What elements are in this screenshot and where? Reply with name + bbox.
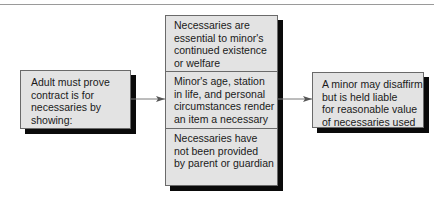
outcome-line: but is held liable [322,91,423,104]
condition-line: by parent or guardian [174,157,277,170]
middle-box-conditions: Necessaries are essential to minor's con… [165,15,278,186]
condition-line: continued existence [174,44,277,57]
condition-line: Necessaries have [174,132,277,145]
condition-not-provided: Necessaries have not been provided by pa… [166,129,277,185]
condition-line: not been provided [174,145,277,158]
condition-line: Minor's age, station [174,75,277,88]
top-rule [0,4,434,5]
condition-circumstances: Minor's age, station in life, and person… [166,72,277,129]
outcome-line: A minor may disaffirm [322,78,423,91]
left-box-adult-must-prove: Adult must prove contract is for necessa… [20,70,131,129]
condition-line: an item a necessary [174,113,277,126]
outcome-line: for reasonable value [322,103,423,116]
condition-line: in life, and personal [174,88,277,101]
condition-line: circumstances render [174,100,277,113]
condition-line: essential to minor's [174,32,277,45]
outcome-line: of necessaries used [322,116,423,129]
left-box-line: contract is for [31,89,130,102]
condition-line: or welfare [174,57,277,70]
arrow-middle-to-right [278,94,314,104]
left-box-line: showing: [31,114,130,127]
right-box-outcome: A minor may disaffirm but is held liable… [312,72,424,128]
left-box-line: Adult must prove [31,76,130,89]
condition-essential: Necessaries are essential to minor's con… [166,16,277,72]
arrow-left-to-middle [131,94,167,104]
left-box-line: necessaries by [31,101,130,114]
condition-line: Necessaries are [174,19,277,32]
